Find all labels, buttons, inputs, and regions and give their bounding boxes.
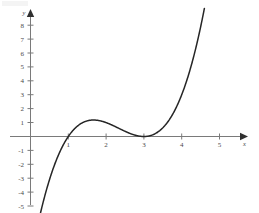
y-tick-label-neg-2: -2 — [18, 161, 24, 169]
x-axis-label: x — [242, 140, 246, 147]
chart-figure: 1 2 3 4 5 8 7 6 5 4 3 2 1 -1 -2 -3 -4 -5… — [0, 0, 259, 213]
y-tick-label-7: 7 — [21, 36, 25, 44]
x-tick-label-3: 3 — [142, 141, 146, 149]
x-tick-label-1: 1 — [67, 141, 71, 149]
y-tick-label-8: 8 — [21, 22, 25, 30]
y-tick-labels-group: 8 7 6 5 4 3 2 1 -1 -2 -3 -4 -5 — [18, 22, 24, 211]
y-axis-label: y — [22, 9, 26, 16]
x-tick-label-4: 4 — [180, 141, 184, 149]
axes-group — [10, 9, 248, 205]
y-tick-label-neg-3: -3 — [18, 175, 24, 183]
cubic-function-plot: 1 2 3 4 5 8 7 6 5 4 3 2 1 -1 -2 -3 -4 -5… — [0, 0, 259, 213]
function-curve — [40, 8, 204, 213]
y-tick-label-5: 5 — [21, 63, 25, 71]
y-tick-label-4: 4 — [21, 77, 25, 85]
y-tick-label-neg-1: -1 — [18, 147, 24, 155]
y-tick-label-1: 1 — [21, 119, 25, 127]
y-tick-label-2: 2 — [21, 105, 25, 113]
y-tick-label-3: 3 — [21, 91, 25, 99]
y-tick-label-6: 6 — [21, 50, 25, 58]
x-tick-labels-group: 1 2 3 4 5 — [67, 141, 222, 149]
y-axis-arrowhead — [27, 9, 34, 17]
y-tick-label-neg-5: -5 — [18, 203, 24, 211]
x-tick-label-2: 2 — [104, 141, 108, 149]
y-tick-label-neg-4: -4 — [18, 189, 24, 197]
x-tick-label-5: 5 — [218, 141, 222, 149]
